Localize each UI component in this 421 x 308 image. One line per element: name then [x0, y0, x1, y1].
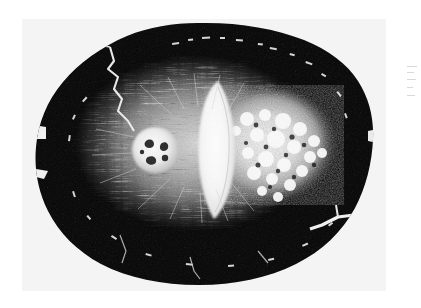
margin-tick	[407, 72, 414, 73]
scan-margin-marks	[405, 66, 419, 100]
page-root	[0, 0, 421, 308]
margin-tick	[407, 87, 413, 88]
margin-tick	[407, 95, 415, 96]
specimen-image	[22, 19, 386, 291]
photograph-plate	[22, 19, 386, 291]
margin-tick	[407, 66, 417, 67]
margin-tick	[407, 79, 416, 80]
